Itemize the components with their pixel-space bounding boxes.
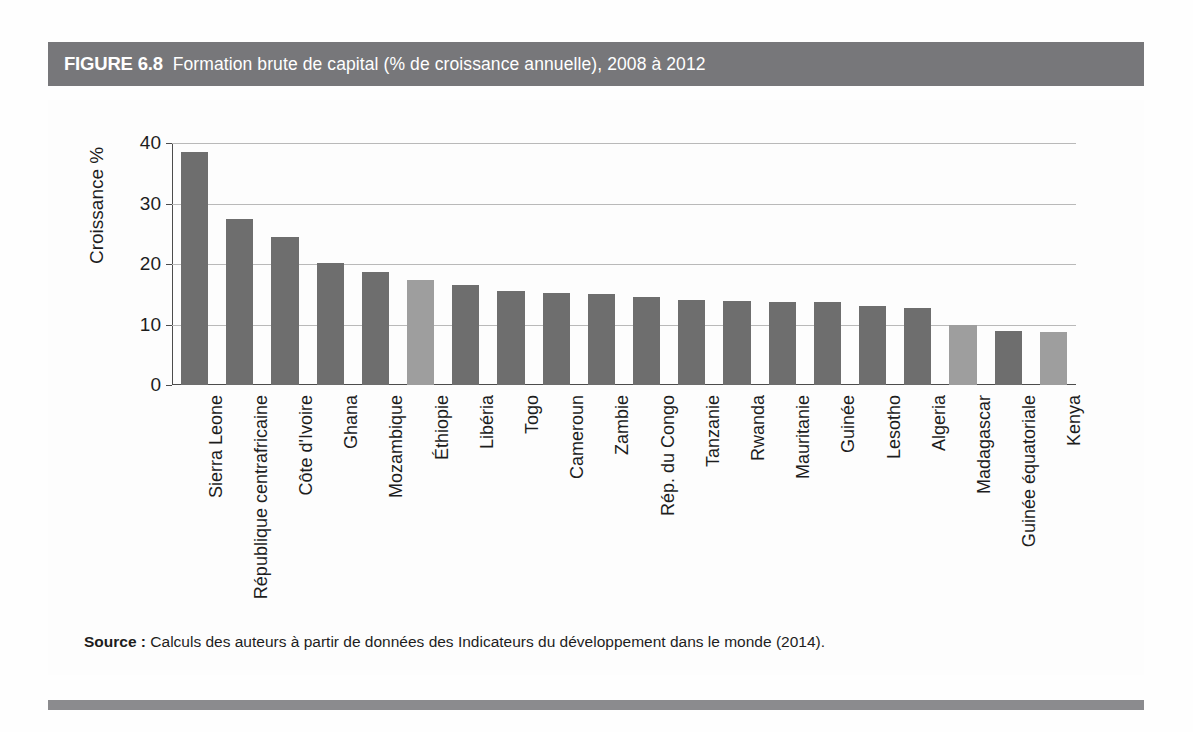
x-axis-label: Tanzanie xyxy=(702,323,723,395)
x-axis-label-text: Guinée xyxy=(838,395,859,453)
bar-group: Ghana xyxy=(317,143,344,385)
bar xyxy=(633,297,660,385)
bar-group: Rwanda xyxy=(723,143,750,385)
x-axis-label: Côte d'Ivoire xyxy=(295,295,316,396)
x-axis-label-text: Rép. du Congo xyxy=(657,395,678,516)
x-axis-label-text: Mozambique xyxy=(386,395,407,498)
x-axis-label-text: Lesotho xyxy=(883,395,904,459)
bar xyxy=(723,301,750,385)
bar-group: Guinée équatoriale xyxy=(995,143,1022,385)
bar-group: Kenya xyxy=(1040,143,1067,385)
x-axis-label-text: Zambie xyxy=(612,395,633,455)
bar-group: Mauritanie xyxy=(769,143,796,385)
x-axis-label-text: Éthiopie xyxy=(431,395,452,460)
bar xyxy=(497,291,524,385)
x-axis-label: Libéria xyxy=(476,341,497,395)
x-axis-label: Kenya xyxy=(1064,344,1085,395)
x-axis-label-text: Guinée équatoriale xyxy=(1019,395,1040,547)
bar-group: Lesotho xyxy=(859,143,886,385)
x-axis-label: Guinée équatoriale xyxy=(1019,243,1040,395)
bar-group: Éthiopie xyxy=(407,143,434,385)
bar xyxy=(949,325,976,385)
bar-group: Libéria xyxy=(452,143,479,385)
x-axis-label: Togo xyxy=(521,356,542,395)
x-axis-label: Lesotho xyxy=(883,331,904,395)
bar-group: Côte d'Ivoire xyxy=(271,143,298,385)
bar xyxy=(271,237,298,385)
x-axis-label: Rwanda xyxy=(747,329,768,395)
y-axis-title: Croissance % xyxy=(86,147,108,264)
figure-title-text: Formation brute de capital (% de croissa… xyxy=(173,54,706,74)
x-axis-label: République centrafricaine xyxy=(250,191,271,395)
bar xyxy=(226,219,253,385)
bars-layer: Sierra LeoneRépublique centrafricaineCôt… xyxy=(172,143,1076,385)
plot-area: 010203040 Sierra LeoneRépublique centraf… xyxy=(172,143,1076,385)
bar xyxy=(678,300,705,385)
bar-group: Sierra Leone xyxy=(181,143,208,385)
x-axis-label-text: Algeria xyxy=(928,395,949,451)
bar-group: Algeria xyxy=(904,143,931,385)
x-axis-label: Sierra Leone xyxy=(205,292,226,395)
bottom-rule xyxy=(48,700,1144,710)
x-axis-label: Algeria xyxy=(928,339,949,395)
x-axis-label-text: République centrafricaine xyxy=(250,395,271,599)
y-tick-label: 30 xyxy=(140,193,161,215)
x-axis-label: Cameroun xyxy=(567,311,588,395)
figure-title-band: FIGURE 6.8 Formation brute de capital (%… xyxy=(48,42,1144,86)
bar-group: Tanzanie xyxy=(678,143,705,385)
bar xyxy=(859,306,886,385)
x-axis-label-text: Côte d'Ivoire xyxy=(295,395,316,496)
x-axis-label-text: Sierra Leone xyxy=(205,395,226,498)
source-note: Source : Calculs des auteurs à partir de… xyxy=(84,633,825,651)
bar-group: Guinée xyxy=(814,143,841,385)
x-axis-label: Ghana xyxy=(341,341,362,395)
x-axis-label-text: Mauritanie xyxy=(793,395,814,479)
bar xyxy=(181,152,208,385)
bar-group: Togo xyxy=(497,143,524,385)
x-axis-label: Rép. du Congo xyxy=(657,274,678,395)
figure-number: FIGURE 6.8 xyxy=(64,53,163,74)
x-axis-label-text: Togo xyxy=(521,395,542,434)
x-axis-label: Mauritanie xyxy=(793,311,814,395)
source-label: Source : xyxy=(84,633,146,650)
y-tick-mark xyxy=(166,385,172,386)
bar-group: Cameroun xyxy=(543,143,570,385)
chart-panel: Croissance % 010203040 Sierra LeoneRépub… xyxy=(48,100,1144,675)
y-tick-label: 20 xyxy=(140,253,161,275)
x-axis-label: Mozambique xyxy=(386,292,407,395)
bar xyxy=(452,285,479,385)
bar-group: Zambie xyxy=(588,143,615,385)
x-axis-label: Madagascar xyxy=(973,296,994,395)
y-tick-label: 10 xyxy=(140,314,161,336)
x-axis-label-text: Madagascar xyxy=(973,395,994,494)
bar-group: République centrafricaine xyxy=(226,143,253,385)
bar-group: Madagascar xyxy=(949,143,976,385)
figure-title: FIGURE 6.8 Formation brute de capital (%… xyxy=(48,53,706,75)
bar xyxy=(904,308,931,385)
x-axis-label: Guinée xyxy=(838,337,859,395)
x-axis-label-text: Cameroun xyxy=(567,395,588,479)
source-text: Calculs des auteurs à partir de données … xyxy=(150,633,825,650)
x-axis-label-text: Tanzanie xyxy=(702,395,723,467)
x-axis-label: Éthiopie xyxy=(431,330,452,395)
x-axis-label-text: Libéria xyxy=(476,395,497,449)
bar-group: Rép. du Congo xyxy=(633,143,660,385)
y-tick-label: 40 xyxy=(140,132,161,154)
x-axis-label: Zambie xyxy=(612,335,633,395)
y-tick-label: 0 xyxy=(150,374,161,396)
bar xyxy=(407,280,434,385)
x-axis-label-text: Rwanda xyxy=(747,395,768,461)
bar-group: Mozambique xyxy=(362,143,389,385)
x-axis-label-text: Kenya xyxy=(1064,395,1085,446)
x-axis-label-text: Ghana xyxy=(341,395,362,449)
figure-container: FIGURE 6.8 Formation brute de capital (%… xyxy=(0,0,1193,732)
